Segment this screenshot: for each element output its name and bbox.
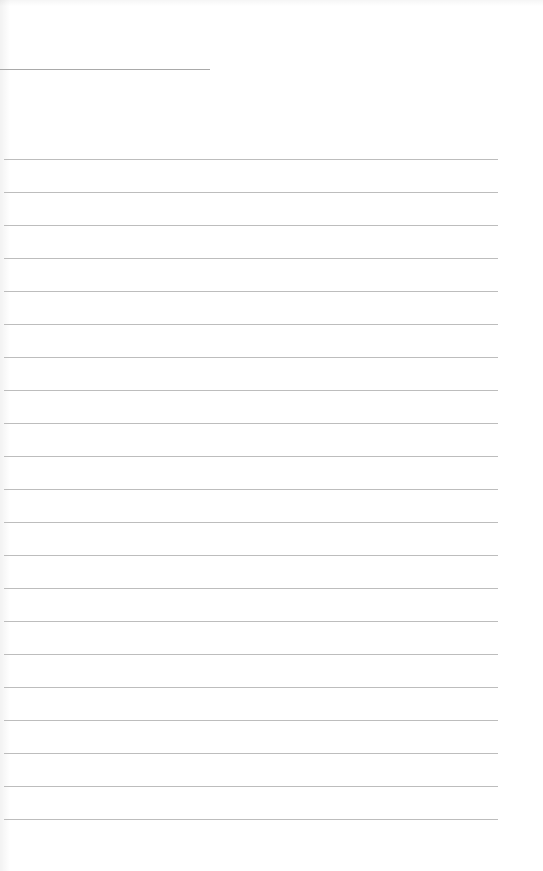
ruled-line — [4, 786, 498, 787]
ruled-line — [4, 423, 498, 424]
ruled-line — [4, 192, 498, 193]
ruled-line — [4, 357, 498, 358]
ruled-line — [4, 489, 498, 490]
ruled-line — [4, 687, 498, 688]
ruled-line — [4, 588, 498, 589]
ruled-line — [4, 291, 498, 292]
ruled-line — [4, 390, 498, 391]
ruled-line — [4, 654, 498, 655]
ruled-line — [4, 522, 498, 523]
ruled-line — [4, 456, 498, 457]
lined-paper-page — [0, 0, 543, 871]
ruled-line — [4, 753, 498, 754]
ruled-line — [4, 159, 498, 160]
ruled-lines-area — [0, 0, 543, 871]
ruled-line — [4, 555, 498, 556]
ruled-line — [4, 258, 498, 259]
ruled-line — [4, 324, 498, 325]
ruled-line — [4, 819, 498, 820]
ruled-line — [4, 621, 498, 622]
ruled-line — [4, 720, 498, 721]
ruled-line — [4, 225, 498, 226]
